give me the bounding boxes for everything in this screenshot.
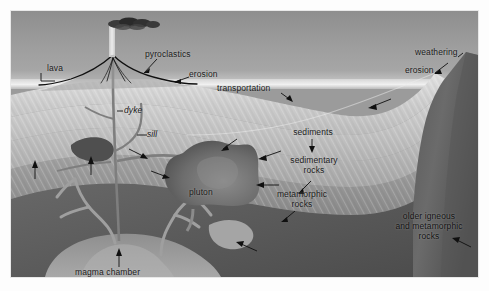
label-erosion-right: erosion (405, 65, 434, 75)
arrow-pyroclastics (144, 59, 157, 73)
label-weathering: weathering (415, 47, 458, 57)
arrow-metamorphic-down (281, 211, 295, 222)
arrow-basin-right (368, 99, 391, 110)
arrow-erosion-left (174, 77, 189, 84)
leader-weathering (458, 53, 463, 57)
label-pluton: pluton (189, 187, 213, 197)
label-sill: sill (147, 129, 157, 139)
arrow-pluton-left (151, 171, 170, 179)
label-older-rocks: older igneous and metamorphic rocks (381, 211, 477, 241)
label-transportation: transportation (217, 83, 270, 93)
label-lava: lava (47, 63, 63, 73)
arrow-pluton-top (221, 139, 237, 151)
label-sedimentary-rocks: sedimentary rocks (283, 155, 345, 175)
label-pyroclastics: pyroclastics (145, 49, 191, 59)
arrow-pluton-lower-left (129, 149, 148, 159)
leader-lava (41, 73, 55, 81)
arrow-uplift-far-left (32, 160, 38, 179)
label-metamorphic-rocks: metamorphic rocks (269, 189, 335, 209)
rock-cycle-figure: lava pyroclastics erosion transportation… (11, 11, 478, 277)
arrow-transportation (281, 93, 293, 102)
arrow-uplift-left (88, 156, 94, 175)
arrow-pluton-right (256, 182, 279, 188)
label-erosion-left: erosion (189, 69, 218, 79)
arrow-magma-up (116, 248, 122, 267)
diagram-page: lava pyroclastics erosion transportation… (0, 0, 489, 291)
label-magma-chamber: magma chamber (75, 267, 140, 277)
arrow-subduction-center (236, 241, 257, 251)
label-dyke: dyke (124, 105, 142, 115)
arrow-erosion-right (434, 63, 448, 74)
arrow-sediments (309, 139, 315, 153)
label-sediments: sediments (287, 127, 339, 137)
arrow-pluton-upper-right (258, 151, 281, 161)
